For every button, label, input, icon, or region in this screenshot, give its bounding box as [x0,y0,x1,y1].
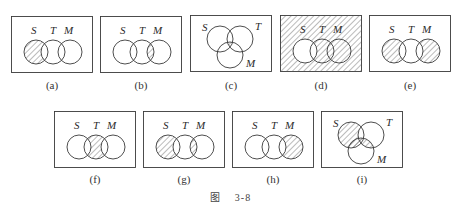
venn-panel-h: S T M [232,111,314,168]
venn-diagram-d: S T M [280,15,362,72]
venn-panel-i: S T M [321,111,403,168]
panel-label-a: (a) [11,79,93,91]
set-label-s: S [163,119,169,131]
set-label-s: S [389,23,395,35]
set-label-m: M [152,24,163,36]
venn-panel-g: S T M [143,111,225,168]
venn-diagram-h: S T M [232,111,314,168]
set-label-s: S [252,119,258,131]
venn-diagram-e: S T M [369,15,451,72]
set-label-m: M [106,119,117,131]
set-label-t: T [139,24,146,36]
figure-caption-number: 3-8 [235,192,251,202]
set-label-s: S [202,21,208,33]
venn-panel-e: S T M [369,15,451,72]
set-label-m: M [332,23,343,35]
venn-diagram-g: S T M [143,111,225,168]
venn-diagram-c: S T M [190,15,272,72]
venn-diagram-b: S T M [100,16,182,73]
venn-panel-f: S T M [54,111,136,168]
venn-panel-a: S T M [11,16,93,73]
panel-label-b: (b) [100,79,182,91]
set-label-m: M [245,57,256,69]
set-label-s: S [333,117,339,129]
set-label-s: S [300,23,306,35]
venn-panel-b: S T M [100,16,182,73]
panel-label-f: (f) [54,173,136,185]
panel-label-c: (c) [190,79,272,91]
panel-label-e: (e) [369,79,451,91]
set-label-t: T [182,119,189,131]
set-label-m: M [284,119,295,131]
set-label-t: T [93,119,100,131]
venn-panel-d: S T M [280,15,362,72]
set-label-m: M [376,153,387,165]
set-label-m: M [63,24,74,36]
venn-panel-c: S T M [190,15,272,72]
set-label-m: M [421,23,432,35]
panel-label-g: (g) [143,173,225,185]
set-label-t: T [271,119,278,131]
set-label-s: S [74,119,80,131]
figure-caption-prefix: 图 [210,192,221,202]
panel-label-d: (d) [280,79,362,91]
set-label-s: S [31,24,37,36]
venn-diagram-a: S T M [11,16,93,73]
set-label-t: T [50,24,57,36]
set-label-t: T [386,116,393,128]
set-label-t: T [255,20,262,32]
figure-caption: 图3-8 [0,189,461,202]
set-label-m: M [195,119,206,131]
venn-diagram-i: S T M [321,111,403,168]
set-label-s: S [120,24,126,36]
set-label-t: T [408,23,415,35]
venn-diagram-f: S T M [54,111,136,168]
panel-label-i: (i) [321,173,403,185]
set-label-t: T [319,23,326,35]
panel-label-h: (h) [232,173,314,185]
